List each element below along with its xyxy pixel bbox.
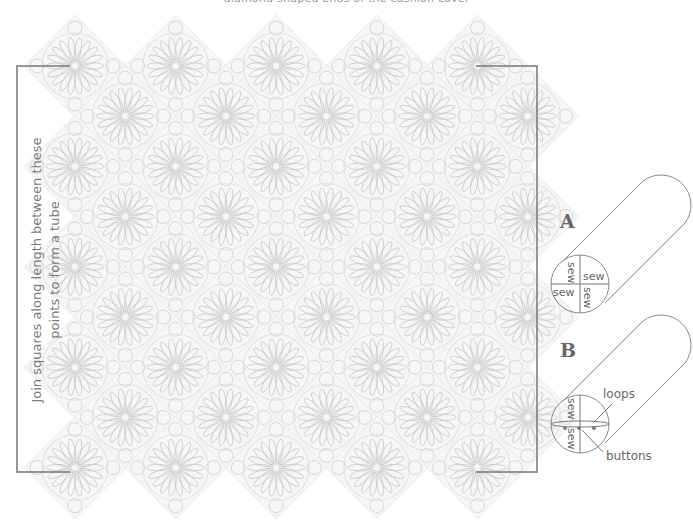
diagram-a-sew-label-1: sew [565, 262, 578, 284]
diagram-b-sew-label-1: sew [565, 398, 578, 420]
diagram-a-sew-label-3: sew [553, 286, 575, 299]
diagram-a-sew-label-2: sew [583, 270, 605, 283]
side-instruction-line-2: points to form a tube [46, 80, 64, 460]
buttons-leader [582, 430, 603, 452]
lace-patchwork [24, 15, 579, 519]
loops-label: loops [603, 387, 635, 401]
button-3 [592, 426, 595, 429]
side-instruction: Join squares along length between these … [22, 80, 70, 460]
cushion-assembly-diagram: diamond-shaped ends of the cushion cover… [0, 0, 693, 531]
diagram-b-letter: B [560, 339, 576, 361]
diagram-a-sew-label-4: sew [581, 287, 594, 309]
diagram-canvas: A sew sew sew sew B sew sew loops button… [0, 0, 693, 531]
side-instruction-line-1: Join squares along length between these [28, 80, 46, 460]
diagram-a-letter: A [559, 210, 575, 232]
buttons-label: buttons [606, 449, 652, 463]
tube-b-outline [563, 315, 691, 443]
diagram-b-sew-label-2: sew [565, 428, 578, 450]
